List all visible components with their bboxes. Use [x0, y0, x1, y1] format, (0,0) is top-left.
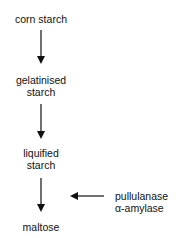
step-label: corn starch: [1, 13, 81, 25]
step-label-line2: starch: [1, 86, 81, 98]
enzyme-alpha-amylase: α-amylase: [115, 202, 168, 214]
step-maltose: maltose: [1, 221, 81, 233]
step-gelatinised-starch: gelatinised starch: [1, 74, 81, 98]
step-label: maltose: [1, 221, 81, 233]
step-corn-starch: corn starch: [1, 13, 81, 25]
enzyme-pullulanase: pullulanase: [115, 190, 168, 202]
step-label-line1: liquified: [1, 147, 81, 159]
step-label-line1: gelatinised: [1, 74, 81, 86]
enzymes-label: pullulanase α-amylase: [115, 190, 168, 214]
step-liquified-starch: liquified starch: [1, 147, 81, 171]
step-label-line2: starch: [1, 159, 81, 171]
